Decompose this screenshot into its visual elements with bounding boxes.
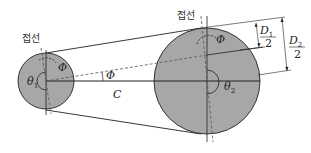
belt-pulley-diagram: 접선 접선 Φ Φ Φ θ1 θ2 C D1 2 D2 2 [0,0,311,153]
center-phi-arc [102,72,103,81]
phi-label-small: Φ [58,61,67,74]
ext-bottom [258,70,291,75]
d1-arrowhead-top [255,23,258,27]
tangent-label-right: 접선 [177,10,195,21]
ext-top [201,17,285,28]
phi-label-large: Φ [216,33,225,46]
tangent-label-left: 접선 [22,33,40,44]
d2-dimension-arrow [282,18,287,71]
d1-denominator: 2 [265,37,272,50]
phi-label-center: Φ [106,69,115,82]
d2-arrowhead-top [281,18,284,22]
d2-denominator: 2 [294,48,301,61]
d1-arrowhead-bottom [257,43,260,47]
center-distance-label: C [113,88,122,101]
